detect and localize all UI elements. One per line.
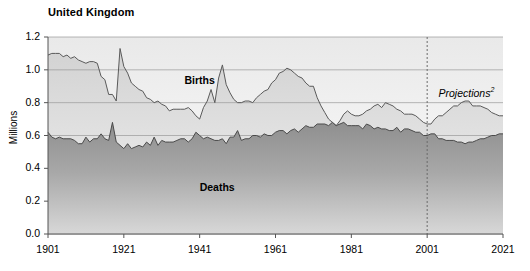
y-axis-tick-label: 1.0 bbox=[14, 63, 40, 75]
x-axis-tick-label: 2021 bbox=[481, 243, 525, 255]
annotation-deaths: Deaths bbox=[200, 181, 235, 193]
x-axis-tick-label: 1901 bbox=[26, 243, 70, 255]
y-axis-tick-label: 0.6 bbox=[14, 129, 40, 141]
x-axis-tick-label: 1941 bbox=[178, 243, 222, 255]
x-axis-tick-label: 1981 bbox=[329, 243, 373, 255]
annotation-births: Births bbox=[185, 74, 215, 86]
y-axis-tick-label: 0.4 bbox=[14, 161, 40, 173]
x-axis-tick-label: 1961 bbox=[254, 243, 298, 255]
y-axis-tick-label: 1.2 bbox=[14, 30, 40, 42]
x-axis-tick-label: 2001 bbox=[405, 243, 449, 255]
y-axis-tick-label: 0.8 bbox=[14, 96, 40, 108]
y-axis-tick-label: 0.2 bbox=[14, 194, 40, 206]
x-axis-tick-label: 1921 bbox=[102, 243, 146, 255]
chart-title: United Kingdom bbox=[48, 6, 134, 18]
plot-area bbox=[0, 0, 530, 271]
y-axis-tick-label: 0.0 bbox=[14, 227, 40, 239]
chart-container: United Kingdom Millions 0.00.20.40.60.81… bbox=[0, 0, 530, 271]
annotation-projections: Projections2 bbox=[439, 86, 495, 99]
